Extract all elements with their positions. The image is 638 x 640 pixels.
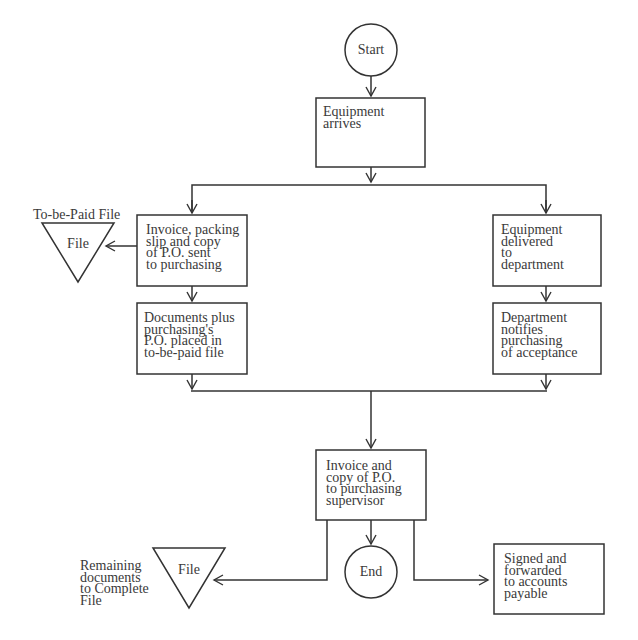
- edge-to-signed-forwarded: [414, 520, 488, 580]
- edge-to-complete-file: [214, 520, 327, 580]
- complete-file-label: File: [171, 564, 207, 576]
- invoice-and-copy-label: Invoice and copy of P.O. to purchasing s…: [326, 460, 402, 506]
- complete-file-node: [153, 548, 225, 608]
- documents-plus-label: Documents plus purchasing's P.O. placed …: [144, 312, 235, 358]
- to-be-paid-caption: To-be-Paid File: [33, 209, 120, 221]
- to-be-paid-file-node: [42, 223, 114, 282]
- complete-file-caption: Remaining documents to Complete File: [80, 560, 149, 606]
- department-notifies-label: Department notifies purchasing of accept…: [501, 312, 578, 358]
- equipment-delivered-label: Equipment delivered to department: [501, 224, 564, 270]
- equipment-arrives-label: Equipment arrives: [323, 106, 384, 129]
- to-be-paid-file-label: File: [60, 238, 96, 250]
- start-label: Start: [345, 44, 397, 56]
- split-connector: [192, 185, 546, 213]
- signed-forwarded-label: Signed and forwarded to accounts payable: [504, 553, 567, 599]
- end-label: End: [345, 566, 397, 578]
- invoice-packing-slip-label: Invoice, packing slip and copy of P.O. s…: [146, 224, 239, 270]
